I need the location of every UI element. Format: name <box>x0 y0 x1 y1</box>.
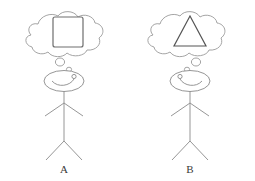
thought-trail-bubble-large-b <box>191 58 200 66</box>
eye-a <box>72 74 76 78</box>
panel-label-b: B <box>186 163 193 175</box>
leg-left-a <box>46 141 64 160</box>
square-shape <box>53 17 83 47</box>
panel-label-a: A <box>60 163 68 175</box>
thought-trail-bubble-large-a <box>55 58 64 66</box>
diagram-canvas: A B <box>0 0 255 181</box>
eye-b <box>178 74 182 78</box>
head-a <box>44 71 84 92</box>
arm-left-a <box>45 103 64 116</box>
leg-left-b <box>172 141 190 160</box>
arm-right-a <box>64 103 83 116</box>
arm-left-b <box>171 103 190 116</box>
panel-a: A <box>26 12 103 175</box>
head-b <box>170 71 210 92</box>
arm-right-b <box>190 103 209 116</box>
leg-right-b <box>190 141 208 160</box>
panel-b: B <box>148 12 225 175</box>
leg-right-a <box>64 141 82 160</box>
